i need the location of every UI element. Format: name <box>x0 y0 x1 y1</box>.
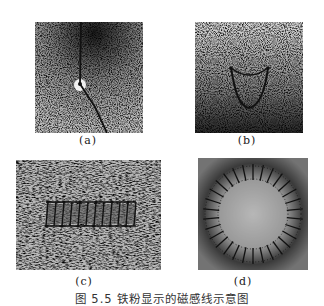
panel-d-label: (d) <box>223 275 263 288</box>
iron-filings-current-loop-image <box>195 22 303 133</box>
panel-b-current-loop <box>195 22 303 133</box>
panel-d-toroid <box>198 158 308 270</box>
panel-c-solenoid <box>16 160 161 270</box>
panel-b-label: (b) <box>227 134 267 147</box>
iron-filings-solenoid-image <box>16 160 161 270</box>
iron-filings-toroid-image <box>198 158 308 270</box>
panel-a-straight-wire <box>35 22 143 133</box>
panel-c-label: (c) <box>64 275 104 288</box>
figure-caption: 图 5.5 铁粉显示的磁感线示意图 <box>0 290 324 306</box>
panel-a-label: (a) <box>68 134 108 147</box>
iron-filings-straight-wire-image <box>35 22 143 133</box>
